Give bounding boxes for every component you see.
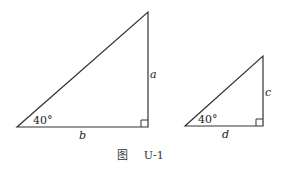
base-label: d xyxy=(222,128,229,141)
height-label: a xyxy=(150,68,157,81)
small-triangle: 40° d c xyxy=(185,56,271,141)
figure-caption: 图 U-1 xyxy=(0,146,281,162)
caption-id: U-1 xyxy=(144,149,164,162)
right-angle-marker xyxy=(141,120,148,127)
caption-prefix: 图 xyxy=(117,149,128,162)
large-triangle: 40° b a xyxy=(17,12,157,142)
angle-label: 40° xyxy=(198,113,218,126)
base-label: b xyxy=(79,129,86,142)
diagram-canvas: 40° b a 40° d c xyxy=(0,0,281,170)
right-angle-marker xyxy=(256,119,263,126)
angle-label: 40° xyxy=(33,114,53,127)
small-triangle-shape xyxy=(185,56,263,126)
large-triangle-shape xyxy=(17,12,148,127)
height-label: c xyxy=(265,86,271,99)
